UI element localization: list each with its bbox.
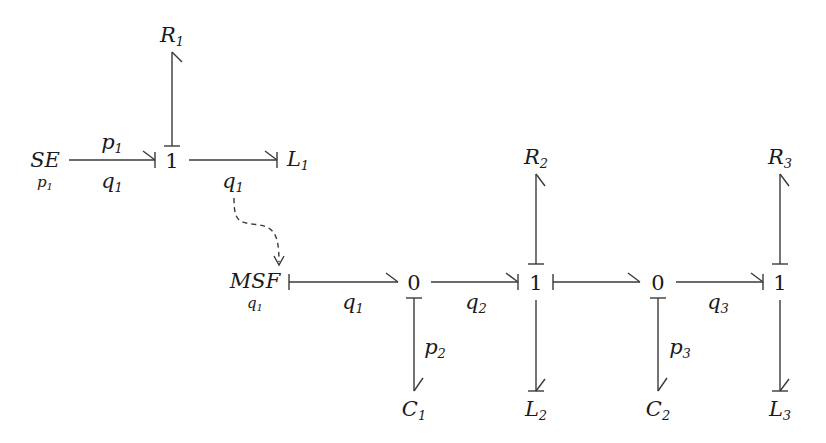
junction-1-b: 1 bbox=[529, 273, 542, 294]
bond-label-j0b-c2: p3 bbox=[669, 337, 691, 360]
element-l1: L1 bbox=[287, 149, 309, 172]
bond-label-j1-l1: q1 bbox=[222, 171, 244, 194]
bond-graph-canvas bbox=[0, 0, 826, 443]
bond-j0b-j1c bbox=[676, 273, 763, 290]
junction-1-a: 1 bbox=[165, 151, 178, 172]
element-l3: L3 bbox=[769, 399, 791, 422]
bond-j1c-r3 bbox=[772, 174, 789, 264]
bond-j1-l1 bbox=[189, 151, 277, 168]
bond-msf-j0a bbox=[289, 273, 398, 290]
junction-0-b: 0 bbox=[651, 273, 664, 294]
element-c1: C1 bbox=[402, 399, 426, 422]
signal-arrowhead bbox=[274, 256, 284, 265]
bond-j1b-r2 bbox=[528, 174, 545, 264]
element-msf: MSF bbox=[230, 271, 280, 292]
element-r2: R2 bbox=[524, 147, 548, 170]
bond-j1-r1 bbox=[164, 52, 182, 146]
element-r1: R1 bbox=[160, 25, 184, 48]
bond-j0b-c2 bbox=[650, 298, 667, 391]
bond-label-msf-j0: q1 bbox=[342, 292, 364, 315]
bond-j1b-j0b bbox=[553, 273, 640, 290]
bond-j1c-l3 bbox=[772, 300, 789, 391]
element-se-sublabel: p1 bbox=[37, 175, 53, 192]
element-l2: L2 bbox=[525, 399, 547, 422]
element-se: SE bbox=[30, 150, 60, 171]
bond-label-j0-j1: q2 bbox=[465, 292, 487, 315]
element-r3: R3 bbox=[768, 147, 792, 170]
junction-0-a: 0 bbox=[407, 273, 420, 294]
bond-label-j0b-j1c: q3 bbox=[707, 292, 729, 315]
junction-1-c: 1 bbox=[773, 273, 786, 294]
bond-j0a-c1 bbox=[406, 298, 423, 391]
bond-j0a-j1b bbox=[431, 273, 518, 290]
bond-label-j0-c1: p2 bbox=[424, 337, 446, 360]
element-msf-sublabel: q1 bbox=[247, 296, 263, 313]
bond-label-se-j1-top: p1 bbox=[101, 132, 123, 155]
signal-dashed-arrow bbox=[234, 198, 279, 262]
element-c2: C2 bbox=[646, 399, 670, 422]
bond-j1b-l2 bbox=[528, 300, 545, 391]
bond-label-se-j1-bottom: q1 bbox=[101, 171, 123, 194]
